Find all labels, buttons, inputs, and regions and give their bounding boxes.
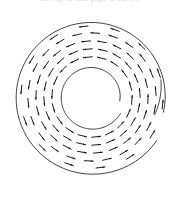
arrow-head-icon	[145, 79, 147, 82]
arrow-head-icon	[150, 69, 152, 72]
arrow-head-icon	[109, 35, 112, 37]
vector-field-canvas	[0, 0, 180, 200]
field-arrow	[57, 58, 64, 64]
arrow-head-icon	[53, 110, 55, 113]
field-arrow	[97, 41, 106, 43]
arrow-head-icon	[25, 122, 27, 125]
inner-circle	[61, 68, 120, 130]
field-arrow	[42, 122, 47, 130]
field-arrow	[97, 57, 106, 59]
field-arrow	[35, 91, 37, 100]
field-arrow	[37, 75, 40, 84]
field-arrow	[113, 45, 121, 49]
field-arrow	[120, 150, 128, 154]
field-arrow	[43, 61, 48, 68]
field-arrow	[63, 136, 71, 141]
field-arrow	[20, 85, 22, 94]
field-arrow	[155, 87, 157, 96]
field-arrow	[144, 110, 147, 119]
arrow-head-icon	[35, 97, 37, 100]
field-arrow	[109, 147, 117, 150]
field-arrow	[91, 32, 100, 34]
field-arrow	[94, 152, 103, 154]
arrow-head-icon	[71, 164, 74, 166]
field-arrow	[109, 35, 118, 38]
field-arrow	[140, 54, 146, 61]
field-arrow	[77, 143, 86, 145]
field-arrow	[111, 28, 120, 31]
field-arrow	[111, 61, 118, 66]
arrow-head-icon	[84, 135, 87, 137]
field-arrow	[28, 99, 30, 108]
field-arrow	[105, 131, 113, 135]
field-arrow	[126, 154, 134, 159]
field-arrow	[124, 138, 131, 144]
field-arrow	[46, 112, 50, 120]
field-arrow	[24, 117, 27, 125]
field-arrow	[50, 35, 58, 40]
field-arrow	[33, 64, 37, 72]
field-arrow	[98, 49, 107, 51]
arrow-head-icon	[37, 113, 39, 116]
field-arrow	[44, 82, 46, 91]
field-arrow	[145, 79, 147, 88]
field-arrow	[150, 131, 155, 139]
field-arrow	[92, 144, 101, 146]
field-arrow	[83, 57, 92, 59]
field-arrow	[131, 95, 133, 104]
field-arrow	[147, 122, 151, 130]
field-arrow	[162, 100, 164, 109]
arrow-head-icon	[129, 82, 131, 85]
field-arrow	[70, 59, 78, 63]
field-arrow	[135, 138, 141, 145]
field-arrow	[51, 90, 53, 99]
arrow-head-icon	[72, 157, 75, 159]
field-arrow	[82, 41, 91, 43]
field-arrow	[51, 146, 58, 151]
field-arrow	[69, 51, 77, 55]
field-arrow	[28, 80, 30, 89]
field-arrow	[107, 139, 115, 143]
field-arrow	[118, 122, 124, 128]
field-arrow	[103, 158, 112, 160]
arrow-head-icon	[66, 45, 69, 47]
field-arrow	[122, 70, 127, 77]
outer-circle	[16, 22, 165, 174]
arrow-head-icon	[145, 110, 147, 113]
field-arrow	[147, 94, 149, 103]
field-arrow	[56, 39, 64, 43]
field-arrow	[83, 49, 92, 51]
vector-field-figure: the top of this page is cut off	[0, 0, 180, 200]
field-arrow	[129, 82, 132, 91]
field-arrow	[53, 125, 59, 132]
field-arrow	[44, 97, 46, 106]
field-arrow	[67, 156, 76, 159]
arrow-head-icon	[32, 122, 34, 125]
field-arrow	[43, 50, 49, 57]
arrow-head-icon	[97, 57, 100, 59]
outer-circle-tail	[154, 80, 161, 115]
field-arrow	[52, 104, 55, 113]
field-arrow	[126, 42, 133, 47]
field-arrow	[96, 166, 105, 168]
field-arrow	[54, 77, 58, 85]
field-arrow	[127, 53, 134, 59]
field-arrow	[66, 44, 74, 47]
field-arrow	[135, 125, 140, 132]
field-arrow	[31, 117, 34, 125]
arrow-head-icon	[37, 81, 39, 84]
field-arrow	[29, 56, 34, 64]
field-arrow	[134, 74, 138, 82]
field-arrow	[39, 133, 45, 140]
field-arrow	[79, 26, 88, 28]
field-arrow	[131, 118, 136, 126]
field-arrow	[138, 103, 140, 112]
field-arrow	[78, 135, 87, 137]
arrow-head-icon	[147, 94, 149, 97]
field-arrow	[78, 151, 87, 153]
field-arrow	[53, 51, 60, 57]
field-arrow	[127, 109, 131, 117]
field-arrow	[60, 66, 66, 72]
field-arrow	[150, 69, 153, 77]
arrow-head-icon	[115, 147, 118, 149]
